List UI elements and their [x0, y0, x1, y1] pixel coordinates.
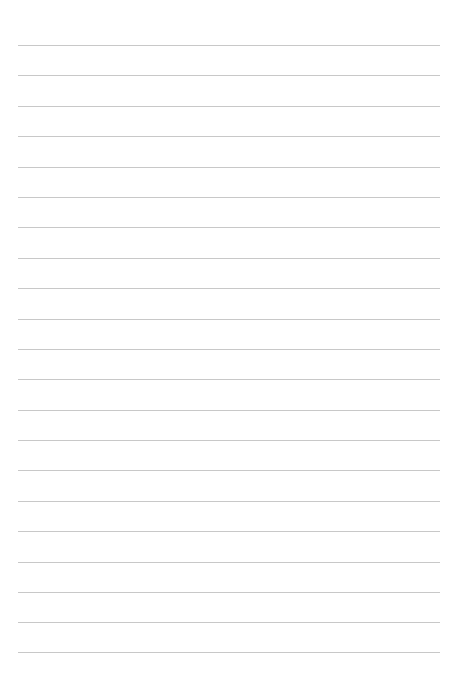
ruled-line	[18, 410, 440, 411]
ruled-line	[18, 592, 440, 593]
ruled-line	[18, 106, 440, 107]
ruled-line	[18, 652, 440, 653]
ruled-line	[18, 75, 440, 76]
ruled-line	[18, 288, 440, 289]
ruled-line	[18, 197, 440, 198]
ruled-line	[18, 167, 440, 168]
ruled-line	[18, 562, 440, 563]
ruled-line	[18, 319, 440, 320]
ruled-line	[18, 379, 440, 380]
lined-page	[0, 0, 457, 682]
ruled-line	[18, 470, 440, 471]
ruled-line	[18, 227, 440, 228]
ruled-line	[18, 349, 440, 350]
ruled-line	[18, 45, 440, 46]
ruled-line	[18, 258, 440, 259]
ruled-line	[18, 622, 440, 623]
ruled-line	[18, 440, 440, 441]
ruled-line	[18, 501, 440, 502]
ruled-line	[18, 531, 440, 532]
ruled-line	[18, 136, 440, 137]
